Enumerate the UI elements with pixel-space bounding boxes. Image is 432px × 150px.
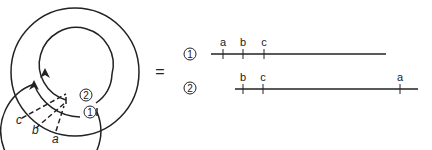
svg-text:1: 1 xyxy=(187,49,193,60)
label-c: c xyxy=(16,113,22,127)
svg-text:c: c xyxy=(261,36,267,48)
svg-text:c: c xyxy=(260,71,266,83)
svg-text:2: 2 xyxy=(83,90,89,101)
path-1-tail xyxy=(34,84,80,117)
svg-text:b: b xyxy=(240,71,246,83)
label-a: a xyxy=(52,132,59,146)
cut-line-c xyxy=(22,94,66,118)
diagram: 2 1 c b a = 1 a b c 2 b c a xyxy=(0,0,432,150)
arrow-inner-icon xyxy=(40,68,50,78)
svg-text:a: a xyxy=(220,36,227,48)
equals-sign: = xyxy=(155,63,164,80)
svg-text:2: 2 xyxy=(187,83,193,94)
svg-text:1: 1 xyxy=(87,107,93,118)
label-b: b xyxy=(32,123,39,137)
path-2-tail xyxy=(96,74,112,103)
svg-text:b: b xyxy=(240,36,246,48)
svg-text:a: a xyxy=(397,71,404,83)
path-2-arc xyxy=(39,27,113,100)
spiral-figure xyxy=(1,8,139,150)
